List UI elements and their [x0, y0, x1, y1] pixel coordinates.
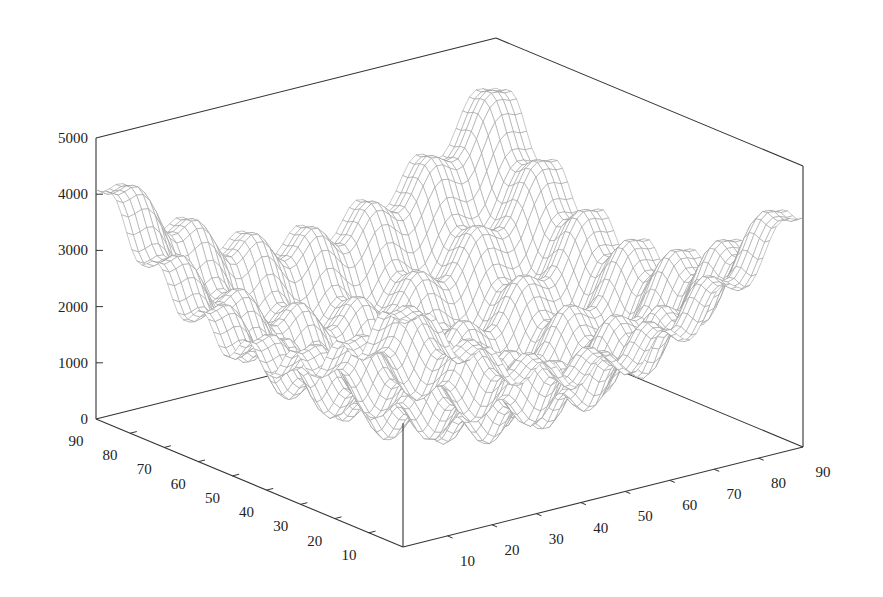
x-tick-label: 30 — [549, 531, 564, 547]
x-tick — [625, 491, 630, 493]
y-tick — [130, 432, 137, 434]
y-tick — [232, 474, 239, 476]
y-tick-label: 50 — [205, 490, 220, 506]
x-tick — [581, 503, 586, 505]
x-tick-label: 40 — [593, 520, 608, 536]
x-tick — [714, 469, 719, 471]
top-back-edge-right — [496, 38, 803, 166]
y-axis-line — [96, 419, 403, 547]
x-tick-label: 70 — [727, 486, 742, 502]
y-tick — [198, 460, 205, 462]
y-tick-label: 20 — [307, 533, 322, 549]
x-tick — [670, 480, 675, 482]
z-tick-label: 2000 — [58, 299, 88, 315]
y-tick — [267, 488, 274, 490]
x-tick — [536, 514, 541, 516]
x-tick-label: 50 — [638, 508, 653, 524]
x-tick — [492, 525, 497, 527]
z-tick-label: 3000 — [58, 242, 88, 258]
y-tick-label: 30 — [273, 518, 288, 534]
z-tick-label: 5000 — [58, 130, 88, 146]
x-tick-label: 80 — [771, 475, 786, 491]
x-tick-label: 20 — [504, 542, 519, 558]
y-tick — [369, 531, 376, 533]
y-axis-ticks: 102030405060708090 — [69, 432, 376, 563]
z-tick-label: 0 — [81, 411, 89, 427]
surface-mesh — [96, 88, 803, 444]
x-tick-label: 60 — [682, 497, 697, 513]
z-tick-label: 1000 — [58, 355, 88, 371]
x-tick — [447, 536, 452, 538]
top-back-edge-left — [96, 38, 496, 138]
x-tick-label: 90 — [816, 464, 831, 480]
y-tick-label: 10 — [341, 547, 356, 563]
y-tick — [301, 503, 308, 505]
y-tick-label: 40 — [239, 504, 254, 520]
y-tick-label: 90 — [69, 433, 84, 449]
z-tick-label: 4000 — [58, 186, 88, 202]
x-axis-ticks: 102030405060708090 — [447, 458, 830, 569]
x-tick-label: 10 — [460, 553, 475, 569]
y-tick-label: 70 — [137, 461, 152, 477]
x-tick — [759, 458, 764, 460]
y-tick-label: 60 — [171, 476, 186, 492]
y-tick-label: 80 — [103, 447, 118, 463]
surface-plot: 010002000300040005000 102030405060708090… — [0, 0, 883, 597]
y-tick — [164, 446, 171, 448]
y-tick — [335, 517, 342, 519]
